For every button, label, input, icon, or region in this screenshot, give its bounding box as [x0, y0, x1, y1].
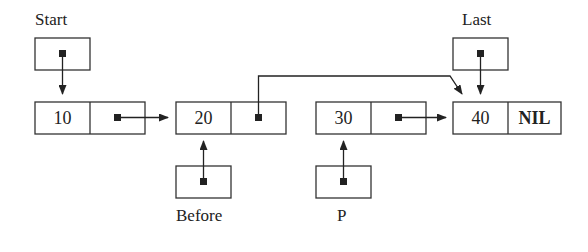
nil-label: NIL [508, 102, 561, 134]
node-10-value: 10 [35, 102, 90, 134]
before-label: Before [176, 206, 222, 226]
start-label: Start [35, 10, 67, 30]
p-label: P [337, 206, 346, 226]
node-30-value: 30 [316, 102, 371, 134]
node-20-value: 20 [176, 102, 231, 134]
node-40-value: 40 [453, 102, 508, 134]
last-label: Last [462, 10, 491, 30]
